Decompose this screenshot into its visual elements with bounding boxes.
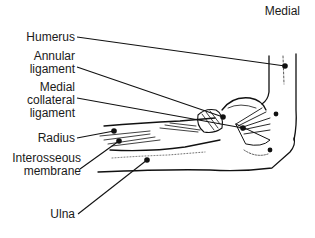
dot-annular [220,114,226,120]
leader-ulna [78,160,147,214]
dot-mcl [240,125,246,131]
leader-humerus [77,37,285,66]
leader-mcl [77,98,243,128]
leader-interosseous [80,141,119,169]
humerus-outline-right [294,54,296,140]
leader-annular [77,67,223,117]
dot-humerus [282,63,288,69]
dot-ulna [144,157,150,163]
elbow-illustration [0,0,315,238]
dot-interosseous [116,138,122,144]
leader-radius [77,131,114,138]
dot-radius [111,128,117,134]
